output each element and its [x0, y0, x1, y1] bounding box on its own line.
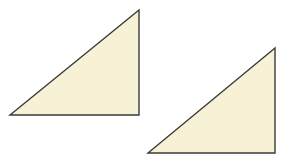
triangle-left [10, 10, 139, 115]
diagram-canvas [0, 0, 284, 166]
triangles-figure [0, 0, 284, 166]
triangle-right [148, 48, 275, 153]
